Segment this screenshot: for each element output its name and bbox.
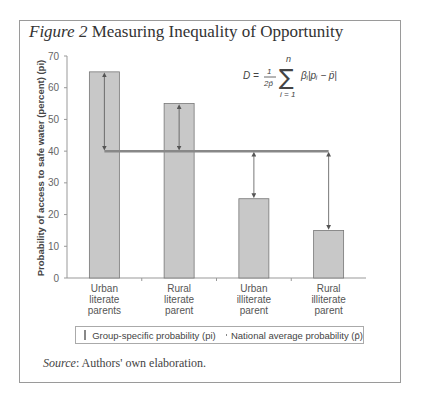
y-tick-label: 60 bbox=[48, 82, 60, 93]
legend-bar-swatch bbox=[84, 330, 86, 340]
y-tick-label: 70 bbox=[48, 51, 60, 62]
svg-text:i = 1: i = 1 bbox=[280, 90, 295, 99]
x-category-label: Urbanliterateparents bbox=[74, 283, 134, 316]
x-category-label: Urbanilliterateparent bbox=[224, 283, 284, 316]
y-tick-label: 50 bbox=[48, 114, 60, 125]
source-label: Source bbox=[43, 356, 76, 370]
y-axis-title: Probability of access to safe water (per… bbox=[35, 60, 46, 276]
bar bbox=[314, 230, 344, 278]
source-note: Source: Authors' own elaboration. bbox=[43, 356, 206, 371]
svg-text:βᵢ|pᵢ − p̄|: βᵢ|pᵢ − p̄| bbox=[300, 70, 337, 81]
x-category-label: Ruralliterateparent bbox=[149, 283, 209, 316]
svg-text:D =: D = bbox=[243, 70, 259, 81]
svg-text:n: n bbox=[286, 55, 291, 64]
x-category-label: Ruralilliterateparent bbox=[299, 283, 359, 316]
source-text: : Authors' own elaboration. bbox=[76, 356, 206, 370]
y-tick-label: 30 bbox=[48, 177, 60, 188]
legend-line-label: National average probability (p̄) bbox=[231, 330, 363, 341]
svg-text:2p̄: 2p̄ bbox=[263, 79, 273, 88]
svg-text:∑: ∑ bbox=[279, 65, 294, 90]
formula-graphic: D = 1 2p̄ ∑ n i = 1 βᵢ|pᵢ − p̄| bbox=[243, 55, 373, 105]
legend-bar-label: Group-specific probability (pi) bbox=[92, 330, 216, 341]
y-tick-label: 20 bbox=[48, 209, 60, 220]
svg-text:1: 1 bbox=[267, 67, 271, 76]
y-tick-label: 0 bbox=[53, 273, 59, 284]
bar bbox=[239, 199, 269, 278]
y-tick-label: 40 bbox=[48, 146, 60, 157]
formula: D = 1 2p̄ ∑ n i = 1 βᵢ|pᵢ − p̄| bbox=[243, 55, 373, 107]
y-tick-label: 10 bbox=[48, 241, 60, 252]
legend: Group-specific probability (pi) National… bbox=[75, 326, 364, 344]
